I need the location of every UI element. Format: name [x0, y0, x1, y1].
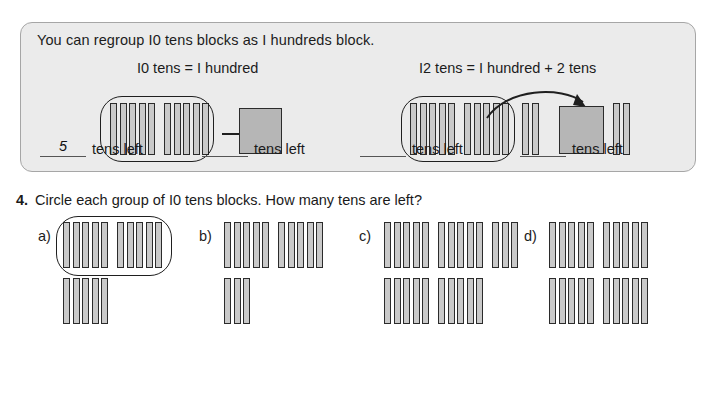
tens-rod: [101, 278, 108, 324]
tens-rod: [603, 278, 610, 324]
item-label-b: b): [199, 228, 212, 244]
tens-rod: [422, 222, 429, 268]
tens-block-row: [63, 222, 162, 268]
tens-rod: [127, 222, 134, 268]
panel-title: You can regroup I0 tens blocks as I hund…: [37, 32, 374, 48]
tens-rod: [183, 103, 190, 155]
tens-rod: [422, 278, 429, 324]
tens-block-row: [384, 222, 518, 268]
tens-rod: [136, 222, 143, 268]
tens-rod: [448, 222, 455, 268]
tens-rod: [193, 103, 200, 155]
tens-rod: [155, 222, 162, 268]
tens-rod: [476, 278, 483, 324]
question-number: 4.: [16, 192, 28, 208]
question-text: Circle each group of I0 tens blocks. How…: [35, 192, 422, 208]
tens-rod: [622, 278, 629, 324]
tens-rod: [632, 222, 639, 268]
tens-rod: [297, 222, 304, 268]
tens-rod-group: [438, 278, 483, 324]
tens-rod: [253, 222, 260, 268]
item-label-a: a): [38, 228, 51, 244]
tens-rod-group: [117, 222, 162, 268]
answer-blank-c[interactable]: [360, 138, 406, 157]
tens-rod-group: [549, 278, 594, 324]
tens-rod: [117, 222, 124, 268]
tens-rod: [73, 278, 80, 324]
tens-rod: [457, 278, 464, 324]
answer-suffix-a: tens left: [92, 141, 143, 157]
answer-suffix-d: tens left: [572, 141, 623, 157]
tens-rod: [262, 222, 269, 268]
tens-rod: [438, 278, 445, 324]
tens-rod: [511, 222, 518, 268]
tens-rod-group: [63, 222, 108, 268]
answer-line-a: 5 tens left: [40, 138, 143, 157]
item-c-blocks: [384, 222, 518, 334]
tens-rod: [307, 222, 314, 268]
tens-rod-group: [278, 222, 323, 268]
tens-rod: [146, 222, 153, 268]
tens-rod: [474, 103, 481, 155]
tens-rod: [394, 278, 401, 324]
tens-rod: [413, 222, 420, 268]
tens-rod: [243, 278, 250, 324]
tens-rod: [92, 278, 99, 324]
tens-rod: [568, 222, 575, 268]
tens-rod-group: [384, 278, 429, 324]
tens-rod: [492, 222, 499, 268]
tens-rod: [613, 222, 620, 268]
tens-block-row: [63, 278, 162, 324]
tens-rod: [549, 222, 556, 268]
item-a-blocks: [63, 222, 162, 324]
answer-blank-d[interactable]: [520, 138, 566, 157]
tens-rod: [403, 278, 410, 324]
tens-block-row: [224, 278, 323, 324]
tens-rod: [384, 222, 391, 268]
tens-block-row: [549, 222, 648, 268]
tens-rod: [457, 222, 464, 268]
tens-rod-group: [384, 222, 429, 268]
tens-rod: [623, 103, 630, 155]
tens-rod: [578, 278, 585, 324]
tens-rod: [613, 278, 620, 324]
tens-rod: [587, 222, 594, 268]
answer-blank-a[interactable]: 5: [40, 138, 86, 157]
tens-rod-group: [603, 222, 648, 268]
tens-rod: [82, 278, 89, 324]
item-label-d: d): [524, 228, 537, 244]
tens-rod: [101, 222, 108, 268]
tens-rod: [234, 222, 241, 268]
tens-rod: [148, 103, 155, 155]
tens-rod: [394, 222, 401, 268]
tens-rod-group: [438, 222, 483, 268]
tens-rod: [224, 278, 231, 324]
tens-rod: [622, 222, 629, 268]
tens-rod: [476, 222, 483, 268]
tens-block-row: [384, 278, 518, 324]
tens-rod: [641, 222, 648, 268]
item-d-blocks: [549, 222, 648, 334]
tens-rod: [403, 222, 410, 268]
item-b-blocks: [224, 222, 323, 334]
tens-rod: [559, 222, 566, 268]
worksheet-item-a: a): [38, 222, 137, 392]
tens-rod: [384, 278, 391, 324]
tens-rod: [578, 222, 585, 268]
tens-rod: [82, 222, 89, 268]
answer-line-c: tens left: [360, 138, 463, 157]
equation-twelve-tens: I2 tens = I hundred + 2 tens: [419, 60, 596, 76]
answer-blank-b[interactable]: [202, 138, 248, 157]
tens-rod: [92, 222, 99, 268]
tens-rod: [243, 222, 250, 268]
tens-rod: [632, 278, 639, 324]
tens-rod: [63, 278, 70, 324]
tens-rod: [587, 278, 594, 324]
tens-rod-group: [63, 278, 108, 324]
tens-rod: [467, 222, 474, 268]
tens-rod: [568, 278, 575, 324]
tens-rod: [641, 278, 648, 324]
tens-rod: [63, 222, 70, 268]
tens-block-row: [224, 222, 323, 268]
tens-rod: [502, 222, 509, 268]
